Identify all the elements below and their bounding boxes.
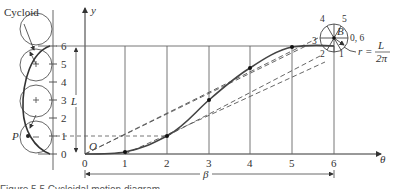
- svg-text:5: 5: [342, 14, 347, 24]
- svg-text:1: 1: [122, 157, 128, 169]
- svg-text:L: L: [377, 39, 384, 51]
- svg-text:β: β: [202, 168, 209, 180]
- figure-caption: Figure 5.5 Cycloidal motion diagram: [0, 184, 160, 189]
- svg-text:5: 5: [289, 157, 295, 169]
- svg-text:0, 6: 0, 6: [350, 33, 365, 43]
- svg-text:r =: r =: [358, 45, 372, 57]
- theta-axis-label: θ: [380, 153, 386, 165]
- svg-text:3: 3: [61, 94, 67, 106]
- svg-text:4: 4: [320, 14, 325, 24]
- point-b-label: B: [337, 25, 344, 37]
- cycloid-label: Cycloid: [4, 6, 39, 18]
- svg-text:6: 6: [331, 157, 337, 169]
- svg-text:2π: 2π: [376, 52, 388, 64]
- svg-text:2: 2: [320, 49, 325, 59]
- curve-points: [123, 45, 294, 154]
- svg-text:3: 3: [312, 36, 317, 46]
- left-scale: 0 1 2 3 4 5 6: [49, 10, 67, 170]
- svg-text:4: 4: [247, 157, 253, 169]
- svg-text:L: L: [70, 95, 77, 107]
- svg-text:2: 2: [164, 157, 170, 169]
- svg-text:0: 0: [82, 157, 88, 169]
- y-axis-label: y: [90, 4, 96, 16]
- projection-lines: [85, 38, 325, 154]
- svg-text:5: 5: [61, 58, 67, 70]
- svg-text:0: 0: [61, 148, 67, 160]
- point-p-label: P: [11, 130, 19, 142]
- cycloid-diagram: Cycloid P 0 1 2 3 4 5 6 L y θ: [0, 0, 394, 189]
- svg-text:4: 4: [61, 76, 67, 88]
- svg-text:1: 1: [339, 49, 344, 59]
- point-p-marker: [26, 134, 30, 138]
- svg-text:2: 2: [61, 112, 67, 124]
